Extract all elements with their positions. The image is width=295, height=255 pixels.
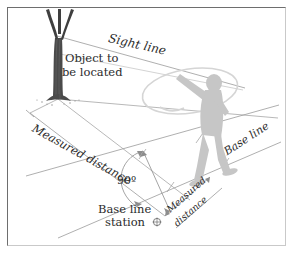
label-object-to-be-located-line1: Object to [65, 52, 118, 65]
ground-edge-upper [58, 99, 278, 118]
measured-distance-tick-start [26, 110, 34, 117]
label-base-line-station-line1: Base line [98, 203, 151, 216]
label-base-line-station-line2: station [105, 216, 145, 229]
station-marker-icon [153, 218, 162, 227]
base-line-ticks [139, 133, 203, 159]
measured-distance-line-left [26, 99, 190, 216]
ground-plane-lines [30, 99, 278, 118]
surveying-diagram: Sight line Object to be located Measured… [0, 0, 295, 255]
base-line-group [26, 105, 281, 238]
ground-edge-left [30, 99, 58, 113]
label-object-to-be-located-line2: be located [62, 66, 123, 79]
label-right-angle: 90º [117, 175, 136, 187]
